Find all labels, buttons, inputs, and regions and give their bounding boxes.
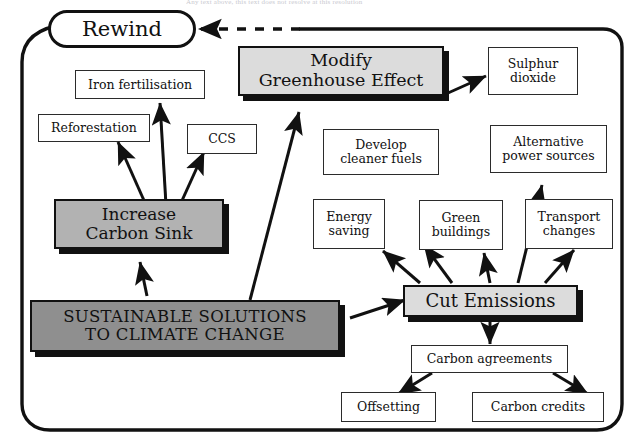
node-label-line2: power sources [502, 149, 594, 163]
node-offsetting[interactable]: Offsetting [341, 392, 436, 422]
node-carbon-agreements[interactable]: Carbon agreements [411, 345, 568, 373]
node-label: Carbon agreements [427, 352, 553, 366]
node-label-line1: Transport [538, 210, 601, 224]
node-label: CCS [208, 132, 236, 146]
node-sulphur-dioxide[interactable]: Sulphur dioxide [488, 47, 578, 95]
node-label-line2: Greenhouse Effect [259, 71, 424, 91]
node-label-line2: changes [543, 224, 595, 238]
rewind-button[interactable]: Rewind [48, 10, 196, 48]
node-reforestation[interactable]: Reforestation [38, 114, 150, 142]
node-develop-cleaner-fuels[interactable]: Develop cleaner fuels [323, 129, 439, 175]
node-label-line1: SUSTAINABLE SOLUTIONS [63, 308, 307, 326]
node-alternative-power-sources[interactable]: Alternative power sources [490, 125, 607, 173]
node-label-line1: Green [442, 211, 481, 225]
node-label: Cut Emissions [425, 291, 555, 311]
node-ccs[interactable]: CCS [187, 124, 257, 154]
node-label-line2: Carbon Sink [85, 224, 192, 243]
node-label: Carbon credits [491, 400, 585, 414]
node-label-line2: saving [329, 224, 370, 238]
node-transport-changes[interactable]: Transport changes [525, 199, 613, 249]
node-label: Iron fertilisation [88, 78, 192, 92]
node-carbon-credits[interactable]: Carbon credits [472, 392, 604, 422]
node-label-line2: buildings [432, 225, 491, 239]
node-label-line1: Energy [326, 210, 372, 224]
node-energy-saving[interactable]: Energy saving [313, 199, 385, 249]
node-label-line1: Modify [310, 51, 372, 71]
node-label-line1: Alternative [513, 135, 583, 149]
node-increase-carbon-sink[interactable]: Increase Carbon Sink [54, 199, 224, 249]
node-label: Reforestation [51, 121, 137, 135]
node-green-buildings[interactable]: Green buildings [419, 200, 503, 250]
node-label-line1: Develop [355, 138, 406, 152]
node-modify-greenhouse-effect[interactable]: Modify Greenhouse Effect [238, 46, 444, 96]
node-label-line1: Sulphur [508, 57, 559, 71]
diagram-canvas: Any text above, this text does not resol… [0, 0, 643, 440]
node-sustainable-solutions-to-climate-change[interactable]: SUSTAINABLE SOLUTIONS TO CLIMATE CHANGE [30, 300, 340, 352]
node-label-line2: TO CLIMATE CHANGE [85, 326, 285, 344]
node-label-line1: Increase [102, 205, 176, 224]
node-cut-emissions[interactable]: Cut Emissions [403, 285, 578, 317]
node-label: Offsetting [357, 400, 420, 414]
node-label-line2: dioxide [510, 71, 556, 85]
node-label-line2: cleaner fuels [340, 152, 422, 166]
node-iron-fertilisation[interactable]: Iron fertilisation [75, 70, 205, 99]
rewind-label: Rewind [82, 17, 162, 41]
